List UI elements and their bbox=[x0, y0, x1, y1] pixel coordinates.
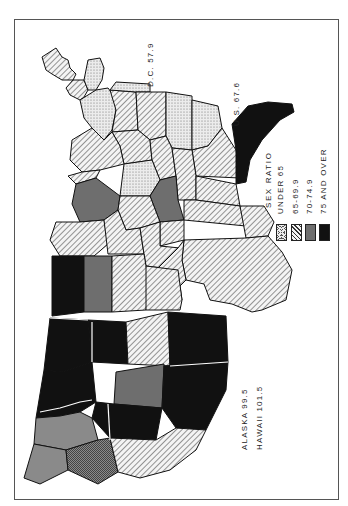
state-north-carolina bbox=[166, 92, 192, 150]
legend-title: SEX RATIO bbox=[264, 152, 273, 208]
state-kansas bbox=[146, 266, 182, 310]
legend-swatch-under-65 bbox=[276, 224, 287, 241]
legend-swatch-75-over bbox=[319, 224, 330, 241]
legend-label-65-69: 65-69.9 bbox=[291, 178, 300, 214]
state-new-mexico bbox=[168, 312, 228, 366]
state-washington bbox=[24, 444, 68, 484]
legend-label-70-74: 70-74.9 bbox=[305, 178, 314, 214]
state-utah bbox=[114, 364, 164, 408]
state-south-dakota bbox=[84, 256, 112, 312]
us-choropleth-map bbox=[0, 0, 348, 506]
legend-swatch-65-69 bbox=[291, 224, 302, 241]
state-north-dakota bbox=[52, 256, 84, 316]
hawaii-label: HAWAII 101.5 bbox=[255, 386, 264, 451]
state-arizona bbox=[162, 362, 228, 430]
state-texas bbox=[182, 236, 292, 312]
state-louisiana bbox=[240, 206, 274, 238]
us-label: U.S. 67.6 bbox=[232, 82, 241, 126]
state-idaho bbox=[36, 362, 96, 418]
legend-label-under-65: UNDER 65 bbox=[276, 165, 285, 214]
alaska-label: ALASKA 99.5 bbox=[240, 388, 249, 450]
state-nebraska bbox=[112, 254, 150, 312]
state-colorado bbox=[126, 312, 170, 366]
dc-label: D.C. 57.9 bbox=[146, 42, 155, 87]
state-massachusetts bbox=[84, 58, 104, 90]
state-arkansas bbox=[160, 220, 184, 246]
state-minnesota bbox=[50, 220, 108, 256]
legend-swatch-70-74 bbox=[305, 224, 316, 241]
state-wyoming bbox=[88, 320, 128, 364]
state-nevada bbox=[92, 402, 162, 440]
state-maine bbox=[42, 48, 76, 80]
legend-label-75-over: 75 AND OVER bbox=[319, 148, 328, 214]
state-new-jersey-md bbox=[110, 82, 150, 92]
